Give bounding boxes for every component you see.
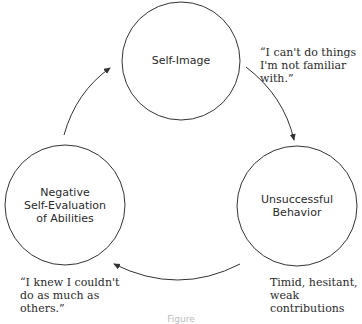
self-image-quote: “I can't do things I'm not familiar with… — [260, 46, 362, 85]
behavior-note: Timid, hesitant, weak contributions — [270, 276, 362, 315]
evaluation-quote: “I knew I couldn't do as much as others.… — [20, 276, 120, 315]
negative-self-evaluation-label: Negative Self-Evaluation of Abilities — [10, 186, 120, 225]
unsuccessful-behavior-label: Unsuccessful Behavior — [247, 193, 347, 219]
arrow-evaluation-to-self-image — [64, 68, 110, 135]
figure-caption: Figure — [0, 314, 362, 324]
self-image-label: Self-Image — [131, 54, 231, 67]
arrow-behavior-to-evaluation — [114, 264, 240, 280]
